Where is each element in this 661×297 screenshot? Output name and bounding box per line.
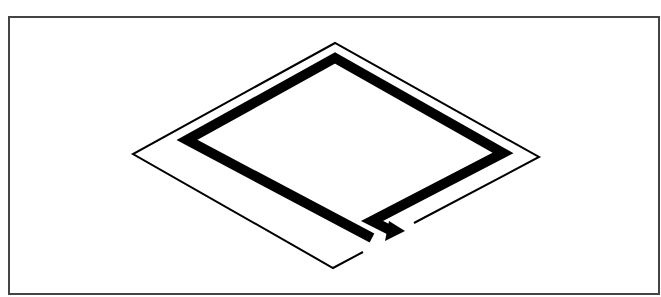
outer-thin-coil-line bbox=[133, 43, 539, 268]
diagram-canvas bbox=[0, 0, 661, 297]
